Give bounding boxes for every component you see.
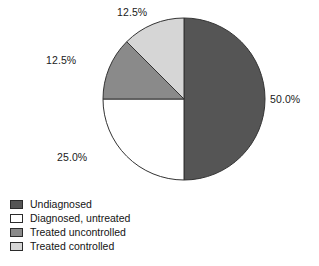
- legend-label-diagnosed-untreated: Diagnosed, untreated: [30, 212, 130, 225]
- legend-item-treated-uncontrolled[interactable]: Treated uncontrolled: [10, 225, 190, 239]
- legend-label-undiagnosed: Undiagnosed: [30, 198, 92, 211]
- legend-item-treated-controlled[interactable]: Treated controlled: [10, 239, 190, 253]
- pie-label-diagnosed-untreated-percent: 25.0%: [57, 151, 87, 163]
- pie-label-undiagnosed-percent: 50.0%: [270, 93, 300, 105]
- legend-label-treated-uncontrolled: Treated uncontrolled: [30, 226, 126, 239]
- legend-label-treated-controlled: Treated controlled: [30, 240, 114, 253]
- legend-swatch-undiagnosed: [10, 200, 23, 209]
- legend-swatch-treated-uncontrolled: [10, 228, 23, 237]
- pie-label-treated-controlled-percent: 12.5%: [117, 6, 147, 18]
- legend-swatch-diagnosed-untreated: [10, 214, 23, 223]
- pie-chart-figure: 50.0% 25.0% 12.5% 12.5% Undiagnosed Diag…: [0, 0, 319, 266]
- pie-slice-undiagnosed[interactable]: [184, 18, 265, 180]
- legend-item-diagnosed-untreated[interactable]: Diagnosed, untreated: [10, 211, 190, 225]
- legend-item-undiagnosed[interactable]: Undiagnosed: [10, 197, 190, 211]
- chart-legend: Undiagnosed Diagnosed, untreated Treated…: [10, 197, 190, 253]
- pie-slice-diagnosed-untreated[interactable]: [103, 99, 184, 180]
- legend-swatch-treated-controlled: [10, 242, 23, 251]
- pie-label-treated-uncontrolled-percent: 12.5%: [46, 54, 76, 66]
